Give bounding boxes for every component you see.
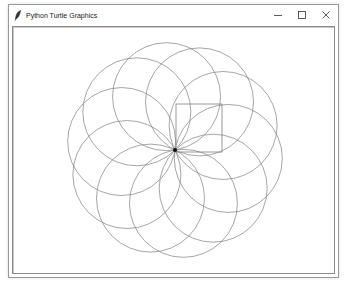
turtle-cursor-icon bbox=[173, 148, 177, 152]
turtle-square bbox=[176, 104, 222, 152]
turtle-drawing-canvas[interactable] bbox=[0, 0, 348, 284]
